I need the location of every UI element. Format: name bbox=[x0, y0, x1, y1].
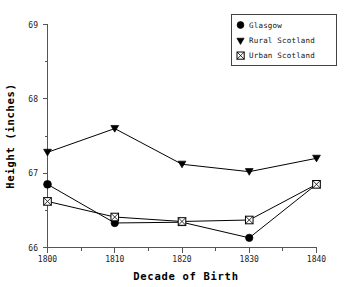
data-point bbox=[111, 213, 119, 221]
data-point bbox=[245, 216, 253, 224]
line-chart: 69 68 67 66 1800 1810 1820 1830 1840 Dec… bbox=[0, 0, 347, 287]
legend-entry-urban-scotland[interactable]: Urban Scotland bbox=[237, 51, 315, 60]
legend: Glasgow Rural Scotland Urban Scotland bbox=[232, 15, 337, 66]
x-tick-label-1810: 1810 bbox=[105, 255, 124, 264]
series-urban-scotland bbox=[44, 181, 321, 226]
y-tick-label-69: 69 bbox=[28, 21, 38, 30]
data-point bbox=[111, 125, 119, 132]
legend-label-rural-scotland: Rural Scotland bbox=[249, 36, 315, 45]
x-tick-label-1840: 1840 bbox=[307, 255, 326, 264]
data-point bbox=[245, 169, 253, 176]
series-rural-scotland bbox=[44, 125, 321, 175]
x-tick-label-1800: 1800 bbox=[38, 255, 57, 264]
data-point bbox=[44, 180, 52, 188]
legend-label-glasgow: Glasgow bbox=[249, 21, 282, 30]
y-axis-title: Height (inches) bbox=[4, 83, 16, 188]
data-point bbox=[313, 181, 321, 189]
circle-marker-icon bbox=[237, 22, 244, 29]
legend-entry-rural-scotland[interactable]: Rural Scotland bbox=[237, 36, 315, 45]
y-tick-label-67: 67 bbox=[28, 169, 38, 178]
data-point bbox=[246, 234, 253, 241]
y-tick-label-68: 68 bbox=[28, 95, 38, 104]
data-point bbox=[44, 149, 52, 156]
x-tick-label-1820: 1820 bbox=[172, 255, 191, 264]
series-glasgow bbox=[44, 180, 320, 241]
data-point bbox=[44, 198, 52, 206]
legend-label-urban-scotland: Urban Scotland bbox=[249, 51, 315, 60]
data-point bbox=[178, 218, 186, 226]
y-tick-label-66: 66 bbox=[28, 244, 38, 253]
x-axis-title: Decade of Birth bbox=[133, 270, 238, 282]
series-layer bbox=[44, 125, 321, 241]
x-tick-label-1830: 1830 bbox=[240, 255, 259, 264]
x-axis-major-ticks bbox=[48, 248, 317, 253]
chart-container: 69 68 67 66 1800 1810 1820 1830 1840 Dec… bbox=[0, 0, 347, 287]
